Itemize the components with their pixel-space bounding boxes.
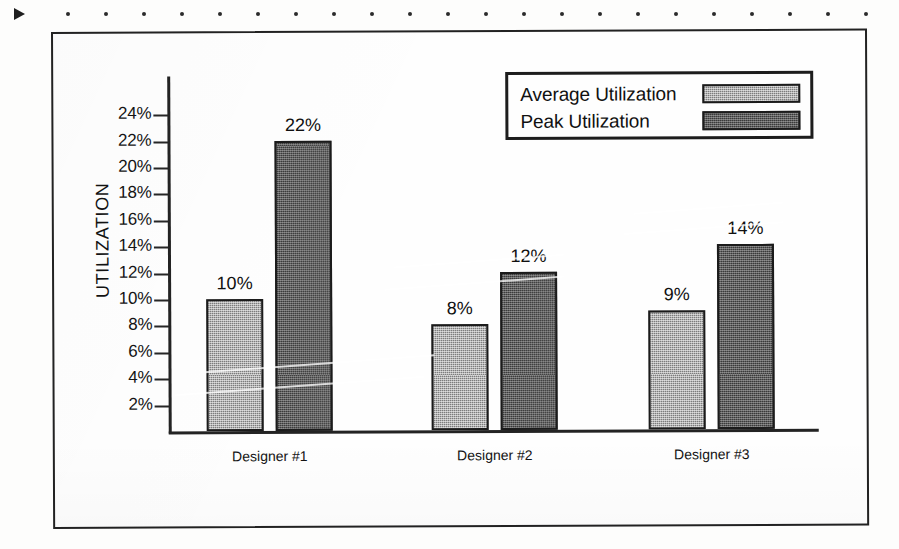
bar-value-label: 22% <box>268 114 338 135</box>
scan-dot <box>294 12 298 16</box>
y-axis-tick-label: 10% <box>100 289 152 309</box>
bar-avg <box>206 299 264 431</box>
bar-avg <box>431 324 488 430</box>
bar-value-label: 9% <box>642 284 712 305</box>
y-axis-tick <box>153 141 168 143</box>
legend-row: Peak Utilization <box>520 107 800 135</box>
y-axis-tick-label: 20% <box>100 157 152 177</box>
legend-label: Average Utilization <box>520 83 676 106</box>
y-axis-tick <box>154 352 169 354</box>
scan-dot <box>370 12 374 16</box>
scan-dot <box>446 12 450 16</box>
scan-dot <box>104 12 108 16</box>
scan-dot <box>598 12 602 16</box>
y-axis-tick-label: 8% <box>100 315 152 335</box>
scan-dot <box>66 12 70 16</box>
y-axis-tick-label: 16% <box>100 209 152 229</box>
scan-dot <box>180 12 184 16</box>
legend-label: Peak Utilization <box>520 110 649 133</box>
x-axis-category-label: Designer #2 <box>420 447 570 464</box>
x-axis-category-label: Designer #3 <box>637 446 787 463</box>
scan-artifact-strip <box>0 0 899 30</box>
y-axis-tick-label: 18% <box>100 183 152 203</box>
chart-page: UTILIZATION 2%4%6%8%10%12%14%16%18%20%22… <box>0 0 899 549</box>
y-axis-tick-labels: 2%4%6%8%10%12%14%16%18%20%22%24% <box>75 34 153 434</box>
y-axis-tick-label: 12% <box>100 262 152 282</box>
y-axis-ticks <box>53 30 865 34</box>
bar-avg <box>648 310 706 429</box>
scan-dot <box>408 12 412 16</box>
bar-peak <box>274 140 332 431</box>
y-axis-tick-label: 6% <box>100 341 152 361</box>
triangle-marker-icon <box>14 8 25 20</box>
bar-peak <box>717 244 775 429</box>
bar-value-label: 14% <box>710 218 780 239</box>
scan-dot <box>750 12 754 16</box>
scan-dot <box>332 12 336 16</box>
y-axis-tick <box>154 220 169 222</box>
y-axis-tick <box>155 405 170 407</box>
bar-peak <box>500 271 558 430</box>
scan-dot <box>864 12 868 16</box>
bar-value-label: 12% <box>493 245 563 266</box>
scan-dot <box>788 12 792 16</box>
x-axis-line <box>169 429 819 435</box>
legend-swatch-avg <box>702 84 800 103</box>
y-axis-tick-label: 24% <box>99 104 151 124</box>
scan-dot <box>560 12 564 16</box>
y-axis-tick <box>155 379 170 381</box>
y-axis-tick-label: 4% <box>100 368 152 388</box>
scan-dot <box>522 12 526 16</box>
y-axis-tick <box>154 167 169 169</box>
scan-streak <box>634 202 784 215</box>
scan-dot <box>712 12 716 16</box>
scan-dot <box>674 12 678 16</box>
bar-value-label: 8% <box>425 298 495 319</box>
y-axis-tick <box>154 299 169 301</box>
y-axis-tick-label: 14% <box>100 236 152 256</box>
bar-value-label: 10% <box>200 273 270 294</box>
y-axis-tick-label: 22% <box>99 130 151 150</box>
y-axis-tick <box>154 273 169 275</box>
scan-dot <box>256 12 260 16</box>
chart-frame: UTILIZATION 2%4%6%8%10%12%14%16%18%20%22… <box>51 28 869 529</box>
scan-dot <box>142 12 146 16</box>
scan-dot <box>826 12 830 16</box>
x-axis-category-labels: Designer #1Designer #2Designer #3 <box>53 30 865 34</box>
y-axis-tick <box>154 247 169 249</box>
legend-row: Average Utilization <box>520 80 800 108</box>
scan-dot <box>636 12 640 16</box>
scan-dot <box>218 12 222 16</box>
y-axis-tick <box>154 326 169 328</box>
bar-series-group: 10%22%8%12%9%14% <box>53 30 865 34</box>
y-axis-tick-label: 2% <box>101 394 153 414</box>
chart-legend: Average UtilizationPeak Utilization <box>505 71 813 140</box>
x-axis-category-label: Designer #1 <box>195 448 345 465</box>
y-axis-tick <box>153 115 168 117</box>
scan-dot <box>484 12 488 16</box>
legend-swatch-peak <box>702 111 800 130</box>
y-axis-tick <box>154 194 169 196</box>
